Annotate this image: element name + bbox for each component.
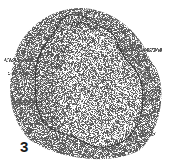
figure-number-label: 3 xyxy=(20,139,28,154)
